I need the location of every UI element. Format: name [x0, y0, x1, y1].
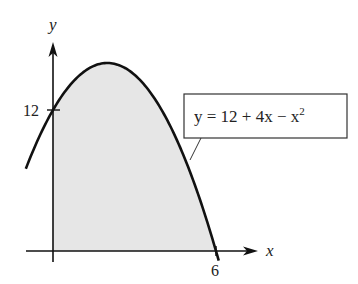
equation-text: y = 12 + 4x − x	[194, 107, 300, 126]
x-axis-label: x	[265, 241, 274, 260]
equation-exponent: 2	[299, 105, 305, 117]
y-tick-label-12: 12	[23, 102, 39, 119]
x-tick-label-6: 6	[211, 262, 219, 279]
chart: y x 12 6 y = 12 + 4x − x2	[0, 0, 358, 284]
y-axis-label: y	[47, 15, 57, 34]
equation-label: y = 12 + 4x − x2	[194, 105, 305, 126]
annotation-leader-line	[190, 138, 201, 160]
